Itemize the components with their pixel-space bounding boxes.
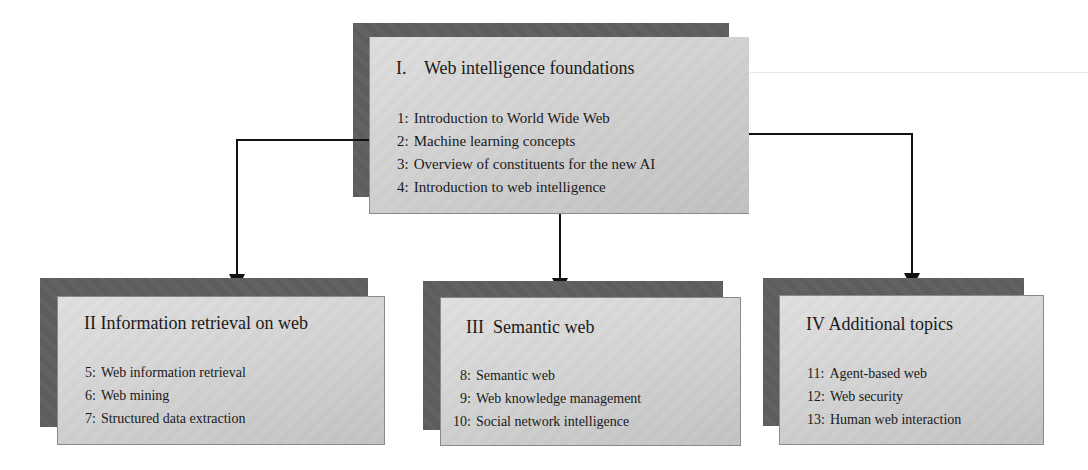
chapter-item: 12:Web security [807,385,961,408]
chapter-item: 10:Social network intelligence [447,410,641,433]
part-4-numeral: IV [806,313,825,335]
part-4-box: IV Additional topics 11:Agent-based web … [779,295,1044,445]
chapter-item: 8:Semantic web [447,364,641,387]
part-1-numeral: I. [396,57,424,79]
chapter-item: 5:Web information retrieval [85,361,246,384]
connector-right-horizontal [749,133,913,135]
part-4-title-text: Additional topics [829,314,954,334]
part-3-box: III Semantic web 8:Semantic web 9:Web kn… [440,297,741,446]
connector-right-vertical [911,133,913,275]
part-1-title-text: Web intelligence foundations [424,58,635,78]
connector-left-horizontal [236,139,369,141]
part-2-box: II Information retrieval on web 5:Web in… [57,296,385,445]
chapter-item: 9:Web knowledge management [447,387,641,410]
part-1-box: I.Web intelligence foundations 1:Introdu… [369,37,749,214]
chapter-item: 13:Human web interaction [807,408,961,431]
part-3-title-text: Semantic web [493,317,594,337]
chapter-item: 7:Structured data extraction [85,407,246,430]
connector-left-vertical [236,139,238,275]
chapter-item: 2:Machine learning concepts [397,130,655,153]
scan-artifact-line [750,72,1088,73]
part-2-numeral: II [84,312,96,334]
part-2-chapter-list: 5:Web information retrieval 6:Web mining… [85,361,246,430]
part-2-title: II Information retrieval on web [84,312,308,334]
chapter-item: 11:Agent-based web [807,362,961,385]
chapter-item: 1:Introduction to World Wide Web [397,107,655,130]
course-structure-diagram: I.Web intelligence foundations 1:Introdu… [0,0,1088,470]
chapter-item: 3:Overview of constituents for the new A… [397,153,655,176]
part-3-numeral: III [466,316,484,338]
part-1-title: I.Web intelligence foundations [396,57,635,79]
chapter-item: 6:Web mining [85,384,246,407]
part-1-chapter-list: 1:Introduction to World Wide Web 2:Machi… [397,107,655,199]
chapter-item: 4:Introduction to web intelligence [397,176,655,199]
part-4-chapter-list: 11:Agent-based web 12:Web security 13:Hu… [807,362,961,431]
part-2-title-text: Information retrieval on web [101,313,308,333]
part-3-title: III Semantic web [466,316,594,338]
part-3-chapter-list: 8:Semantic web 9:Web knowledge managemen… [447,364,641,433]
connector-middle-vertical [559,214,561,280]
part-4-title: IV Additional topics [806,313,953,335]
